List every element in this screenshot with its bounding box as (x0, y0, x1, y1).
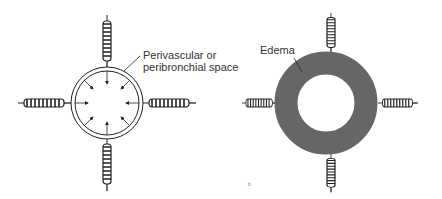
right-spring-icon (143, 99, 196, 107)
bottom-spring-icon (103, 138, 111, 191)
edema-vessel-diagram (242, 13, 418, 192)
edema-ring (286, 63, 366, 143)
bottom-spring-icon (327, 154, 335, 192)
figure: b Perivascular or peribronchial space Ed… (0, 0, 442, 199)
right-spring-icon (378, 99, 418, 107)
diagram-svg: b (0, 0, 442, 199)
edema-label: Edema (260, 44, 295, 56)
page-mark: b (248, 181, 251, 187)
left-spring-icon (18, 99, 71, 107)
label-leader-line (124, 56, 140, 71)
perivascular-label-line2: peribronchial space (143, 61, 238, 73)
normal-vessel-diagram (18, 15, 196, 191)
top-spring-icon (327, 13, 335, 53)
left-spring-icon (242, 99, 277, 107)
top-spring-icon (103, 15, 111, 68)
perivascular-label-line1: Perivascular or (143, 49, 216, 61)
